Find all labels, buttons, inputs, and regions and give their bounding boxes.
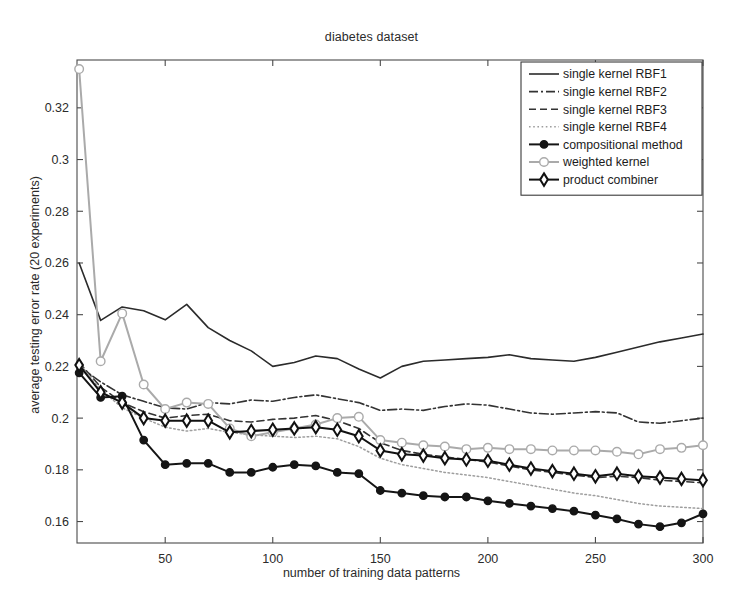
data-point-marker <box>290 422 298 434</box>
data-point-marker <box>570 446 579 455</box>
data-point-marker <box>549 465 557 477</box>
data-point-marker <box>678 473 686 485</box>
legend-label-1: single kernel RBF2 <box>563 85 667 99</box>
data-point-marker <box>548 446 557 455</box>
data-point-marker <box>635 470 643 482</box>
data-point-marker <box>161 405 170 414</box>
series-line-0 <box>79 263 703 378</box>
data-point-marker <box>118 309 127 318</box>
data-point-marker <box>506 500 513 507</box>
data-point-marker <box>592 511 599 518</box>
svg-text:0.18: 0.18 <box>45 463 69 477</box>
svg-text:200: 200 <box>477 552 498 566</box>
data-point-marker <box>205 460 212 467</box>
data-point-marker <box>398 489 405 496</box>
data-point-marker <box>463 493 470 500</box>
data-point-marker <box>291 461 298 468</box>
data-point-marker <box>419 449 427 461</box>
data-point-marker <box>613 447 622 456</box>
svg-text:0.22: 0.22 <box>45 360 69 374</box>
data-point-marker <box>484 497 491 504</box>
svg-text:0.28: 0.28 <box>45 205 69 219</box>
legend-label-2: single kernel RBF3 <box>563 103 667 117</box>
data-point-marker <box>527 502 534 509</box>
data-point-marker <box>484 455 492 467</box>
data-point-marker <box>527 445 536 454</box>
data-point-marker <box>678 519 685 526</box>
data-point-marker <box>591 446 600 455</box>
data-point-marker <box>398 438 407 447</box>
svg-text:0.16: 0.16 <box>45 515 69 529</box>
data-point-marker <box>527 462 535 474</box>
data-point-marker <box>540 158 549 167</box>
legend-label-6: product combiner <box>563 173 658 187</box>
data-point-marker <box>699 441 708 450</box>
svg-text:50: 50 <box>158 552 172 566</box>
data-point-marker <box>355 470 362 477</box>
legend-label-3: single kernel RBF4 <box>563 120 667 134</box>
data-point-marker <box>140 436 147 443</box>
plot-area: 501001502002503000.160.180.20.220.240.26… <box>0 0 743 601</box>
data-point-marker <box>75 65 84 74</box>
series-line-3 <box>79 364 703 509</box>
data-point-marker <box>635 520 642 527</box>
data-point-marker <box>355 413 364 422</box>
data-point-marker <box>420 492 427 499</box>
data-point-marker <box>355 430 363 442</box>
data-point-marker <box>656 445 665 454</box>
series-line-6 <box>79 365 703 480</box>
data-point-marker <box>484 444 493 453</box>
legend-label-4: compositional method <box>563 138 683 152</box>
data-point-marker <box>226 469 233 476</box>
data-point-marker <box>161 414 169 426</box>
svg-text:0.24: 0.24 <box>45 308 69 322</box>
data-point-marker <box>506 458 514 470</box>
data-point-marker <box>699 510 706 517</box>
svg-text:250: 250 <box>585 552 606 566</box>
data-point-marker <box>656 523 663 530</box>
data-point-marker <box>634 450 643 459</box>
data-point-marker <box>333 424 341 436</box>
data-point-marker <box>139 380 148 389</box>
figure-canvas: diabetes dataset average testing error r… <box>0 0 743 601</box>
legend-label-5: weighted kernel <box>562 155 649 169</box>
data-point-marker <box>570 507 577 514</box>
data-point-marker <box>96 357 105 366</box>
data-point-marker <box>334 469 341 476</box>
data-point-marker <box>161 461 168 468</box>
svg-text:0.3: 0.3 <box>52 153 69 167</box>
data-point-marker <box>182 398 191 407</box>
data-point-marker <box>540 141 547 148</box>
data-point-marker <box>333 414 342 423</box>
data-point-marker <box>312 462 319 469</box>
svg-text:0.2: 0.2 <box>52 412 69 426</box>
data-point-marker <box>613 515 620 522</box>
data-point-marker <box>441 493 448 500</box>
svg-text:0.32: 0.32 <box>45 101 69 115</box>
data-point-marker <box>549 505 556 512</box>
data-point-marker <box>183 460 190 467</box>
chart-legend[interactable]: single kernel RBF1single kernel RBF2sing… <box>521 62 702 195</box>
data-point-marker <box>377 487 384 494</box>
data-point-marker <box>463 453 471 465</box>
data-point-marker <box>248 469 255 476</box>
data-point-marker <box>204 400 213 409</box>
data-point-marker <box>441 442 450 451</box>
data-point-marker <box>505 445 514 454</box>
svg-text:0.26: 0.26 <box>45 256 69 270</box>
data-point-marker <box>376 444 384 456</box>
svg-text:150: 150 <box>370 552 391 566</box>
svg-text:300: 300 <box>693 552 714 566</box>
data-point-marker <box>656 471 664 483</box>
data-point-marker <box>677 444 686 453</box>
series-line-4 <box>79 373 703 527</box>
series-line-1 <box>79 366 703 423</box>
data-point-marker <box>699 474 707 486</box>
legend-label-0: single kernel RBF1 <box>563 67 667 81</box>
data-point-marker <box>140 412 148 424</box>
data-point-marker <box>441 452 449 464</box>
data-point-marker <box>204 414 212 426</box>
data-point-marker <box>592 470 600 482</box>
svg-text:100: 100 <box>262 552 283 566</box>
data-point-marker <box>269 464 276 471</box>
